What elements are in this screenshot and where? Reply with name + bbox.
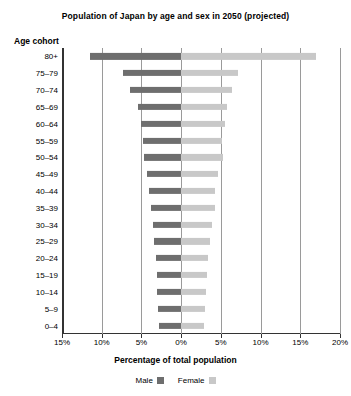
x-tick-label: 0% <box>175 338 187 347</box>
y-tick-label: 55–59 <box>36 136 58 145</box>
x-tick-label: 5% <box>136 338 148 347</box>
chart-row: 55–59 <box>62 132 340 149</box>
bar-female <box>181 87 232 93</box>
bar-male <box>151 205 181 211</box>
y-tick-label: 50–54 <box>36 153 58 162</box>
plot-area: 80+75–7970–7465–6960–6455–5950–5445–4940… <box>62 48 340 334</box>
bar-female <box>181 137 222 143</box>
x-tick-label: 15% <box>292 338 308 347</box>
y-tick-label: 20–24 <box>36 254 58 263</box>
bar-female <box>181 171 218 177</box>
y-tick-label: 35–39 <box>36 203 58 212</box>
bar-female <box>181 289 206 295</box>
legend-item-male: Male <box>135 376 163 385</box>
chart-legend: Male Female <box>0 376 351 385</box>
y-tick-label: 0–4 <box>45 321 58 330</box>
bar-female <box>181 70 237 76</box>
bar-male <box>153 222 182 228</box>
bar-female <box>181 121 225 127</box>
y-tick-label: 65–69 <box>36 102 58 111</box>
bar-male <box>143 137 181 143</box>
chart-row: 65–69 <box>62 98 340 115</box>
population-pyramid-chart: Population of Japan by age and sex in 20… <box>0 0 351 396</box>
y-tick-label: 70–74 <box>36 86 58 95</box>
legend-item-female: Female <box>178 376 216 385</box>
x-axis-title: Percentage of total population <box>0 355 351 365</box>
bar-female <box>181 188 215 194</box>
bar-male <box>141 121 181 127</box>
chart-row: 70–74 <box>62 82 340 99</box>
bar-female <box>181 306 205 312</box>
chart-row: 20–24 <box>62 250 340 267</box>
bar-female <box>181 272 206 278</box>
legend-swatch-male <box>157 377 164 384</box>
chart-title: Population of Japan by age and sex in 20… <box>0 11 351 21</box>
chart-row: 0–4 <box>62 317 340 334</box>
bar-male <box>138 104 181 110</box>
bar-male <box>90 53 181 59</box>
bar-male <box>154 238 181 244</box>
y-tick-label: 40–44 <box>36 186 58 195</box>
bar-female <box>181 154 223 160</box>
chart-row: 75–79 <box>62 65 340 82</box>
y-tick-label: 45–49 <box>36 170 58 179</box>
y-tick-label: 75–79 <box>36 69 58 78</box>
x-tick-label: 20% <box>332 338 348 347</box>
y-tick-label: 15–19 <box>36 271 58 280</box>
legend-swatch-female <box>209 377 216 384</box>
legend-label-male: Male <box>135 376 152 385</box>
gridline <box>340 48 341 334</box>
x-tick-label: 15% <box>54 338 70 347</box>
y-tick-label: 60–64 <box>36 119 58 128</box>
y-tick-label: 80+ <box>44 52 58 61</box>
legend-label-female: Female <box>178 376 205 385</box>
bar-male <box>147 171 181 177</box>
x-tick-label: 10% <box>253 338 269 347</box>
bar-male <box>144 154 181 160</box>
y-tick-label: 10–14 <box>36 287 58 296</box>
y-tick-label: 30–34 <box>36 220 58 229</box>
bar-female <box>181 222 212 228</box>
chart-row: 30–34 <box>62 216 340 233</box>
bar-female <box>181 205 214 211</box>
bar-male <box>156 255 181 261</box>
bar-male <box>123 70 181 76</box>
chart-row: 60–64 <box>62 115 340 132</box>
chart-row: 5–9 <box>62 300 340 317</box>
bar-male <box>157 272 182 278</box>
bar-male <box>159 322 181 328</box>
y-tick-label: 25–29 <box>36 237 58 246</box>
chart-row: 10–14 <box>62 284 340 301</box>
y-tick-label: 5–9 <box>45 304 58 313</box>
y-axis-title: Age cohort <box>14 36 59 46</box>
chart-row: 35–39 <box>62 199 340 216</box>
bar-male <box>157 289 181 295</box>
chart-row: 40–44 <box>62 183 340 200</box>
bar-female <box>181 322 204 328</box>
chart-row: 45–49 <box>62 166 340 183</box>
chart-row: 15–19 <box>62 267 340 284</box>
bar-female <box>181 104 227 110</box>
chart-row: 80+ <box>62 48 340 65</box>
bar-male <box>158 306 181 312</box>
x-tick-label: 5% <box>215 338 227 347</box>
bar-male <box>130 87 181 93</box>
bar-female <box>181 238 210 244</box>
chart-row: 25–29 <box>62 233 340 250</box>
x-tick-label: 10% <box>94 338 110 347</box>
bar-female <box>181 53 316 59</box>
chart-row: 50–54 <box>62 149 340 166</box>
bar-female <box>181 255 208 261</box>
bar-male <box>149 188 181 194</box>
